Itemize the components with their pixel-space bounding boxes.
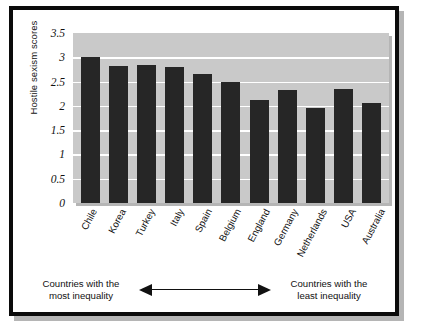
double-arrow-icon: [139, 283, 271, 297]
bar-chart: Hostile sexism scores 00.511.522.533.5 C…: [13, 10, 395, 312]
caption-right-line2: least inequality: [277, 290, 381, 302]
y-axis-tick-label: 1.5: [51, 124, 65, 136]
bar-chile: [81, 57, 100, 203]
x-axis-tick-label-text: Spain: [193, 205, 215, 234]
x-axis-tick-label-text: USA: [339, 205, 359, 230]
bar-spain: [193, 74, 212, 203]
caption-right-line1: Countries with the: [277, 278, 381, 290]
x-axis-tick-labels: ChileKoreaTurkeyItalySpainBelgiumEngland…: [73, 206, 389, 276]
caption-right: Countries with the least inequality: [277, 278, 381, 302]
x-axis-tick-label-text: Chile: [79, 205, 100, 232]
y-axis-tick-label: 3.5: [51, 27, 65, 39]
y-axis-tick-label: 0.5: [51, 173, 65, 185]
x-axis-tick-label-text: Turkey: [133, 205, 158, 238]
y-axis-tick-label: 2: [59, 100, 65, 112]
x-axis-tick-label-text: England: [245, 205, 273, 244]
y-axis-tick-label: 2.5: [51, 76, 65, 88]
arrow-head-right-icon: [258, 284, 271, 296]
y-axis-tick-label: 0: [59, 197, 65, 209]
bar-korea: [109, 66, 128, 203]
x-axis-tick-label-text: Germany: [272, 205, 302, 248]
caption-row: Countries with the most inequality Count…: [29, 272, 381, 308]
x-axis-tick-label-text: Netherlands: [295, 205, 330, 259]
arrow-line: [151, 289, 259, 290]
arrow-head-left-icon: [139, 284, 152, 296]
y-axis-tick-labels: 00.511.522.533.5: [13, 33, 69, 203]
caption-left-line1: Countries with the: [29, 278, 133, 290]
x-axis-tick-label-text: Australia: [359, 205, 388, 246]
x-axis-tick-label-text: Korea: [106, 205, 129, 235]
y-axis-tick-label: 3: [59, 51, 65, 63]
figure-frame: Hostile sexism scores 00.511.522.533.5 C…: [9, 6, 399, 316]
caption-left: Countries with the most inequality: [29, 278, 133, 302]
caption-left-line2: most inequality: [29, 290, 133, 302]
bar-turkey: [137, 65, 156, 203]
y-axis-tick-label: 1: [59, 148, 65, 160]
x-axis-tick-label-text: Belgium: [217, 205, 244, 243]
x-axis-tick-label-text: Italy: [167, 205, 186, 228]
